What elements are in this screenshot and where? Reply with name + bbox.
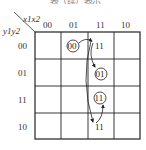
cell-r01-c11: 01 — [96, 69, 105, 79]
cell-r10-c11: 11 — [95, 122, 104, 132]
row-header-11: 11 — [18, 95, 27, 105]
col-header-00: 00 — [43, 20, 53, 30]
col-header-01: 01 — [69, 20, 78, 30]
row-header-10: 10 — [18, 122, 28, 132]
arrow-10row-to-11 — [96, 105, 103, 123]
col-header-11: 11 — [96, 20, 105, 30]
col-header-10: 10 — [121, 20, 131, 30]
arrow-00-to-11 — [79, 39, 92, 43]
row-vars-label: y1y2 — [2, 26, 20, 36]
cell-r11-c11: 11 — [95, 93, 104, 103]
transition-arrows — [79, 39, 103, 123]
cell-r00-c01: 00 — [68, 41, 78, 51]
cell-r00-c11: 11 — [95, 41, 104, 51]
arrow-11-to-10row — [86, 41, 93, 122]
row-header-00: 00 — [18, 41, 28, 51]
grid — [35, 32, 140, 139]
col-vars-label: x1x2 — [22, 14, 40, 24]
row-header-01: 01 — [18, 68, 27, 78]
karnaugh-map: x1x2 y1y2 00 01 11 10 00 01 11 10 00 11 … — [0, 0, 146, 150]
